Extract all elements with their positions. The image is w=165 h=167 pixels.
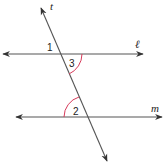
angle-2-label: 2 (73, 106, 79, 117)
angle-1-label: 1 (47, 42, 53, 53)
transversal-t (41, 8, 107, 161)
line-m-label: m (151, 102, 159, 114)
line-t-label: t (50, 0, 54, 12)
angle-3-label: 3 (69, 58, 75, 69)
transversal-diagram: t ℓ m 1 3 2 (0, 0, 165, 167)
line-l-label: ℓ (135, 38, 140, 50)
